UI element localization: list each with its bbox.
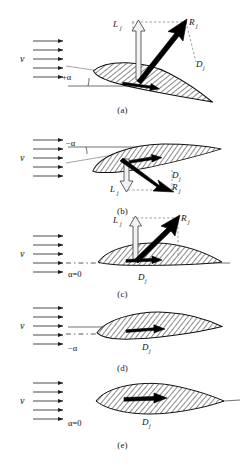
diagram-canvas: v +α D j xyxy=(0,0,245,466)
flow-arrows-e xyxy=(33,383,63,419)
lift-sublabel-b: j xyxy=(116,190,119,196)
drag-sublabel-b: j xyxy=(178,176,181,182)
lift-sublabel-a: j xyxy=(119,25,122,31)
angle-arc-b xyxy=(86,147,87,154)
resultant-sublabel-c: j xyxy=(187,219,190,225)
panel-d: v −α D j xyxy=(20,308,222,354)
airfoil-c xyxy=(98,243,222,265)
velocity-label-b: v xyxy=(20,152,25,163)
panel-c: v α=0 D j L j R xyxy=(20,213,230,284)
trailing-edge-e xyxy=(224,400,240,401)
drag-sublabel-d: j xyxy=(148,348,151,354)
panel-a: v +α D j xyxy=(20,17,217,103)
airfoil-force-diagram: v +α D j xyxy=(0,0,245,466)
drag-sublabel-e: j xyxy=(148,423,151,429)
lift-label-a: L xyxy=(112,19,118,29)
angle-label-d: −α xyxy=(68,343,78,353)
flow-arrows-d xyxy=(33,308,63,344)
velocity-label-e: v xyxy=(20,395,25,406)
caption-e: (e) xyxy=(0,440,245,450)
resultant-label-b: R xyxy=(171,182,178,192)
resultant-sublabel-a: j xyxy=(195,23,198,29)
velocity-label-d: v xyxy=(20,320,25,331)
resultant-sublabel-b: j xyxy=(178,188,181,194)
lift-label-b: L xyxy=(109,184,115,194)
panel-b: v −α D j L j xyxy=(20,138,223,196)
velocity-label-a: v xyxy=(20,53,25,64)
drag-sublabel-a: j xyxy=(202,65,205,71)
flow-arrows-a xyxy=(33,41,63,77)
airfoil-e xyxy=(96,383,240,414)
resultant-label-a: R xyxy=(188,17,195,27)
angle-label-e: α=0 xyxy=(68,418,82,428)
flow-arrows-c xyxy=(33,236,63,272)
caption-d: (d) xyxy=(0,363,245,373)
lift-label-c: L xyxy=(112,215,118,225)
flow-arrows-b xyxy=(33,140,63,176)
lift-sublabel-c: j xyxy=(119,221,122,227)
drag-label-e: D xyxy=(141,417,149,427)
drag-sublabel-c: j xyxy=(144,278,147,284)
caption-c: (c) xyxy=(0,289,245,299)
caption-a: (a) xyxy=(0,105,245,115)
velocity-label-c: v xyxy=(20,248,25,259)
airfoil-d xyxy=(96,310,222,340)
drag-label-c: D xyxy=(137,272,145,282)
angle-arc-a xyxy=(88,78,89,86)
caption-b: (b) xyxy=(0,206,245,216)
angle-label-a: +α xyxy=(62,72,72,82)
panel-e: v α=0 D j xyxy=(20,383,240,429)
angle-label-b: −α xyxy=(66,138,76,148)
drag-label-a: D xyxy=(195,59,203,69)
angle-label-c: α=0 xyxy=(68,269,82,279)
drag-label-d: D xyxy=(141,342,149,352)
